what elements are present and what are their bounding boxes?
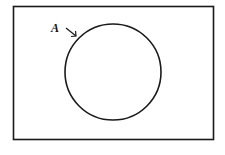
venn-diagram: A xyxy=(0,0,225,155)
set-a-label: A xyxy=(50,21,59,35)
